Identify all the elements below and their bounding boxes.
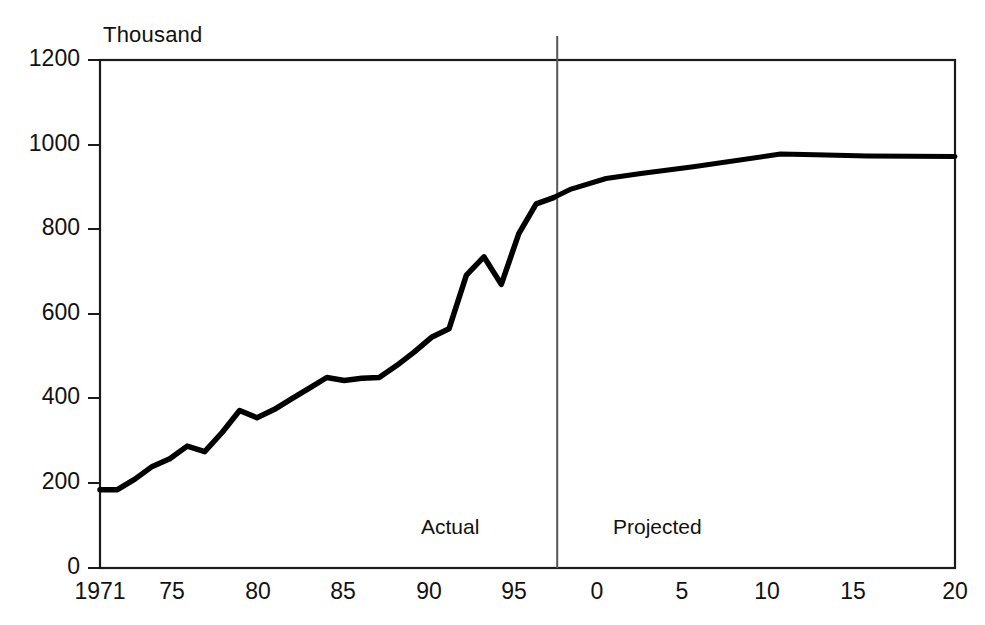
x-tick-label-85: 85 bbox=[320, 580, 366, 603]
chart-container: Thousand 1200 1000 800 600 400 200 0 197… bbox=[0, 0, 985, 625]
x-tick-label-2000: 0 bbox=[584, 580, 610, 603]
y-tick-label-200: 200 bbox=[6, 470, 80, 493]
annotation-projected: Projected bbox=[613, 516, 702, 537]
y-tick-label-0: 0 bbox=[6, 555, 80, 578]
y-tick-label-400: 400 bbox=[6, 385, 80, 408]
series-line-projected bbox=[554, 154, 955, 198]
x-tick-label-2010: 10 bbox=[744, 580, 790, 603]
plot-frame bbox=[100, 60, 955, 568]
x-tick-label-2005: 5 bbox=[669, 580, 695, 603]
series-line-actual bbox=[100, 198, 554, 490]
line-chart-canvas bbox=[0, 0, 985, 625]
y-tick-label-600: 600 bbox=[6, 301, 80, 324]
x-tick-label-1971: 1971 bbox=[63, 580, 137, 603]
y-axis-unit-label: Thousand bbox=[103, 22, 202, 48]
x-tick-label-2015: 15 bbox=[830, 580, 876, 603]
x-tick-label-2020: 20 bbox=[932, 580, 978, 603]
x-tick-label-75: 75 bbox=[149, 580, 195, 603]
x-tick-label-90: 90 bbox=[406, 580, 452, 603]
x-tick-label-80: 80 bbox=[235, 580, 281, 603]
annotation-actual: Actual bbox=[421, 516, 479, 537]
y-tick-label-800: 800 bbox=[6, 216, 80, 239]
y-tick-label-1200: 1200 bbox=[6, 47, 80, 70]
y-axis-ticks bbox=[88, 60, 100, 568]
y-tick-label-1000: 1000 bbox=[6, 132, 80, 155]
x-tick-label-95: 95 bbox=[491, 580, 537, 603]
